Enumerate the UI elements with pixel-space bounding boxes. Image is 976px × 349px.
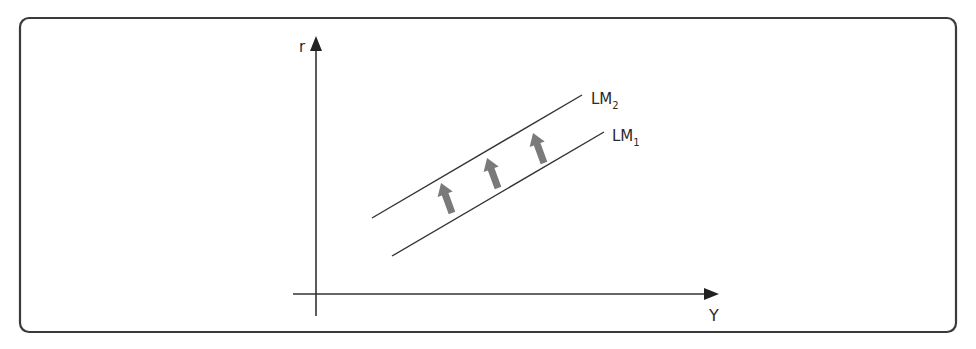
shift-arrow-icon <box>480 155 506 191</box>
lm-shift-diagram: r Y LM2 LM1 <box>0 0 976 349</box>
shift-arrow-icon <box>434 180 460 216</box>
lm1-label: LM1 <box>612 127 640 148</box>
lm2-label: LM2 <box>591 90 619 111</box>
x-axis <box>293 288 719 300</box>
lm1-curve <box>392 132 604 256</box>
x-axis-arrowhead-icon <box>704 288 719 300</box>
shift-arrow-icon <box>526 130 552 166</box>
y-axis <box>310 36 322 316</box>
lm2-curve <box>372 95 582 218</box>
y-axis-label: r <box>299 38 306 56</box>
x-axis-label: Y <box>708 306 719 325</box>
y-axis-arrowhead-icon <box>310 36 322 51</box>
diagram-frame <box>20 18 956 332</box>
